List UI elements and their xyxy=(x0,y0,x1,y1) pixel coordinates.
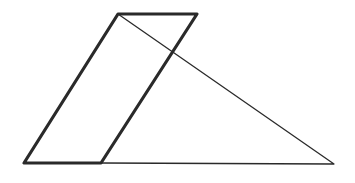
triangle-outline xyxy=(101,14,334,164)
geometry-diagram xyxy=(0,0,355,183)
parallelogram-outline xyxy=(24,14,197,163)
